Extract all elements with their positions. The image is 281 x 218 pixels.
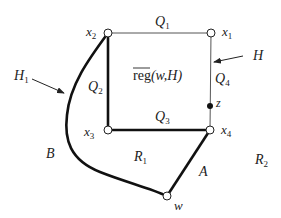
label-w: w (174, 198, 183, 213)
edge-a (167, 130, 210, 196)
label-reg: reg(w,H) (133, 68, 182, 84)
label-x3: x3 (83, 124, 95, 141)
edge-b (66, 33, 167, 196)
label-a: A (198, 164, 208, 179)
label-x2: x2 (85, 24, 96, 41)
arrow-h (214, 56, 243, 62)
label-q2: Q2 (88, 79, 103, 96)
label-r2: R2 (254, 152, 268, 169)
vertex-x1 (207, 29, 215, 37)
vertex-x3 (104, 126, 112, 134)
vertex-x4 (206, 126, 214, 134)
label-x4: x4 (220, 122, 232, 139)
diagram-canvas: x2 x1 x3 x4 w z Q1 Q2 Q3 Q4 A B H1 H R1 … (0, 0, 281, 218)
vertex-w (163, 192, 171, 200)
label-q1: Q1 (155, 14, 170, 31)
vertex-x2 (104, 29, 112, 37)
edge-q4 (210, 33, 211, 130)
arrow-h1 (32, 79, 64, 93)
vertex-z (207, 103, 213, 109)
label-h1: H1 (13, 68, 29, 85)
label-z: z (215, 96, 221, 110)
label-q3: Q3 (155, 109, 170, 126)
label-q4: Q4 (215, 71, 230, 88)
label-x1: x1 (221, 24, 232, 41)
label-b: B (46, 146, 55, 161)
label-r1: R1 (133, 149, 147, 166)
label-h: H (252, 48, 264, 63)
